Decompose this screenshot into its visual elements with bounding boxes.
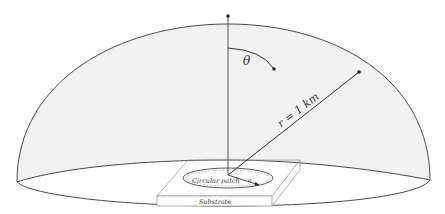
theta-label: θ xyxy=(243,54,251,68)
patch-radius-label: a xyxy=(248,176,252,183)
patch-label: Circular patch xyxy=(192,177,240,185)
hemisphere-dome xyxy=(17,24,430,182)
substrate-label: Substrate xyxy=(199,198,231,206)
hemisphere-diagram: θ r = 1 km Circular patch a Substrate xyxy=(0,0,445,214)
